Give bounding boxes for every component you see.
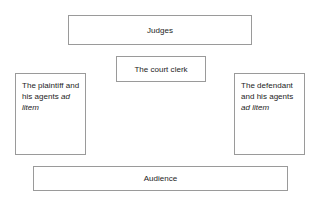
box-court-clerk-label: The court clerk bbox=[134, 64, 187, 75]
box-defendant-label-plain: The defendant and his agents bbox=[241, 81, 293, 101]
diagram-canvas: Judges The court clerk The plaintiff and… bbox=[0, 0, 317, 200]
box-audience-label: Audience bbox=[144, 173, 178, 184]
box-defendant-label: The defendant and his agents ad litem bbox=[241, 80, 304, 113]
box-judges-label: Judges bbox=[147, 25, 173, 36]
box-audience[interactable]: Audience bbox=[33, 166, 288, 191]
box-court-clerk[interactable]: The court clerk bbox=[116, 56, 206, 82]
box-plaintiff[interactable]: The plaintiff and his agents ad litem bbox=[15, 73, 86, 155]
box-defendant-label-italic: ad litem bbox=[241, 103, 269, 112]
box-plaintiff-label-plain: The plaintiff and his agents bbox=[22, 81, 79, 101]
box-plaintiff-label: The plaintiff and his agents ad litem bbox=[22, 80, 85, 113]
box-judges[interactable]: Judges bbox=[68, 15, 252, 45]
box-defendant[interactable]: The defendant and his agents ad litem bbox=[234, 73, 305, 155]
